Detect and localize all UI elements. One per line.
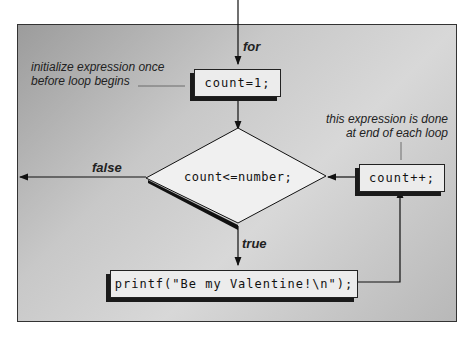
increment-note-line-1: this expression is done — [320, 112, 448, 126]
init-note: initialize expression once before loop b… — [31, 60, 164, 88]
false-label: false — [92, 161, 122, 175]
body-box: printf("Be my Valentine!\n"); — [110, 270, 358, 298]
init-note-line-1: initialize expression once — [31, 60, 164, 74]
init-note-line-2: before loop begins — [31, 74, 164, 88]
increment-note: this expression is done at end of each l… — [320, 112, 448, 140]
condition-text: count<=number; — [184, 170, 292, 184]
increment-box: count++; — [359, 164, 445, 192]
entry-label: for — [243, 40, 260, 54]
increment-note-line-2: at end of each loop — [320, 126, 448, 140]
true-label: true — [242, 237, 267, 251]
init-box: count=1; — [194, 69, 281, 97]
